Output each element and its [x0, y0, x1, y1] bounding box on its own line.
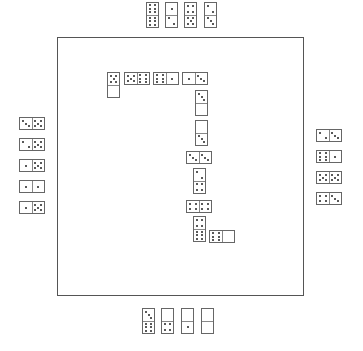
pip-icon [130, 78, 132, 80]
pip-icon [40, 162, 42, 164]
pip-icon [34, 162, 36, 164]
pip-icon [192, 23, 194, 25]
hand-left-tile[interactable] [19, 201, 45, 214]
pip-icon [150, 326, 152, 328]
pip-icon [145, 74, 147, 76]
hand-right-tile[interactable] [316, 150, 342, 163]
pip-icon [334, 135, 336, 137]
tile-half-5 [32, 202, 45, 213]
hand-top-tile[interactable] [184, 2, 197, 28]
tile-half-1 [20, 160, 32, 171]
tile-half-4 [185, 3, 196, 15]
pip-icon [319, 159, 321, 161]
pip-icon [196, 189, 198, 191]
tile-half-1 [182, 321, 193, 334]
pip-icon [337, 137, 339, 139]
pip-icon [156, 74, 158, 76]
game-board [57, 37, 304, 296]
pip-icon [40, 146, 42, 148]
tile-half-1 [20, 202, 32, 213]
pip-icon [28, 146, 30, 148]
pip-icon [207, 208, 209, 210]
hand-right-tile[interactable] [316, 129, 342, 142]
pip-icon [212, 232, 214, 234]
pip-icon [319, 152, 321, 154]
chain-tile [195, 120, 208, 146]
pip-icon [331, 174, 333, 176]
pip-icon [154, 8, 156, 10]
pip-icon [154, 24, 156, 26]
pip-icon [196, 171, 198, 173]
pip-icon [22, 120, 24, 122]
hand-left-tile[interactable] [19, 180, 45, 193]
pip-icon [164, 323, 166, 325]
pip-icon [192, 157, 194, 159]
pip-icon [325, 137, 327, 139]
tile-half-0 [202, 309, 213, 321]
chain-tile [124, 72, 150, 85]
pip-icon [218, 232, 220, 234]
hand-left-tile[interactable] [19, 138, 45, 151]
hand-right-tile[interactable] [316, 192, 342, 205]
pip-icon [28, 125, 30, 127]
hand-bottom-tile[interactable] [142, 308, 155, 334]
tile-half-3 [196, 133, 207, 146]
pip-icon [203, 99, 205, 101]
chain-tile [193, 216, 206, 242]
pip-icon [190, 20, 192, 22]
hand-left-tile[interactable] [19, 117, 45, 130]
pip-icon [319, 195, 321, 197]
pip-icon [145, 323, 147, 325]
tile-half-5 [329, 172, 342, 183]
pip-icon [334, 177, 336, 179]
pip-icon [162, 74, 164, 76]
pip-icon [34, 125, 36, 127]
tile-half-4 [199, 201, 212, 212]
hand-bottom-tile[interactable] [181, 308, 194, 334]
pip-icon [171, 78, 173, 80]
pip-icon [149, 17, 151, 19]
hand-bottom-tile[interactable] [161, 308, 174, 334]
tile-half-3 [195, 73, 208, 84]
pip-icon [37, 144, 39, 146]
pip-icon [34, 141, 36, 143]
pip-icon [207, 203, 209, 205]
tile-half-6 [154, 73, 166, 84]
pip-icon [149, 11, 151, 13]
tile-half-0 [196, 121, 207, 133]
tile-half-2 [317, 130, 329, 141]
pip-icon [325, 159, 327, 161]
hand-bottom-tile[interactable] [201, 308, 214, 334]
pip-icon [189, 208, 191, 210]
hand-right-tile[interactable] [316, 171, 342, 184]
pip-icon [156, 81, 158, 83]
pip-icon [162, 78, 164, 80]
tile-half-6 [147, 15, 158, 28]
hand-top-tile[interactable] [165, 2, 178, 28]
tile-half-2 [166, 15, 177, 28]
hand-left-tile[interactable] [19, 159, 45, 172]
hand-top-tile[interactable] [204, 2, 217, 28]
pip-icon [201, 238, 203, 240]
pip-icon [164, 329, 166, 331]
pip-icon [196, 225, 198, 227]
pip-icon [34, 204, 36, 206]
tile-half-1 [166, 3, 177, 15]
pip-icon [149, 4, 151, 6]
pip-icon [25, 207, 27, 209]
pip-icon [110, 81, 112, 83]
pip-icon [37, 186, 39, 188]
pip-icon [325, 200, 327, 202]
pip-icon [37, 165, 39, 167]
tile-half-3 [205, 15, 216, 28]
hand-top-tile[interactable] [146, 2, 159, 28]
tile-half-5 [125, 73, 137, 84]
pip-icon [207, 5, 209, 7]
pip-icon [218, 239, 220, 241]
tile-half-2 [205, 3, 216, 15]
tile-half-1 [166, 73, 179, 84]
pip-icon [34, 167, 36, 169]
pip-icon [156, 78, 158, 80]
pip-icon [325, 195, 327, 197]
pip-icon [145, 81, 147, 83]
